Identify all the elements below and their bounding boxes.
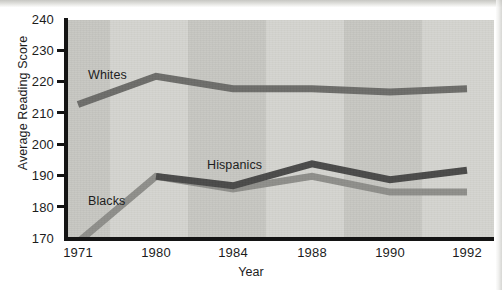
y-axis-tick-230 — [57, 49, 66, 52]
y-axis-tick-220 — [57, 80, 66, 83]
plot-area: Whites Blacks Hispanics — [68, 20, 494, 239]
y-axis-tick-180 — [57, 205, 66, 208]
y-tick-label-170: 170 — [20, 232, 54, 245]
x-tick-label-1984: 1984 — [209, 245, 257, 260]
x-axis-line — [64, 237, 494, 241]
y-axis-tick-200 — [57, 143, 66, 146]
x-tick-label-1971: 1971 — [54, 245, 102, 260]
scan-edge-right — [496, 0, 502, 290]
x-tick-label-1992: 1992 — [443, 245, 491, 260]
series-line-blacks — [78, 176, 467, 239]
series-label-blacks: Blacks — [88, 194, 125, 208]
x-tick-label-1988: 1988 — [288, 245, 336, 260]
chart-figure: 240 230 220 210 200 190 180 170 Whites — [0, 0, 502, 290]
y-axis-tick-190 — [57, 174, 66, 177]
scan-edge-top — [0, 0, 502, 7]
y-axis-tick-210 — [57, 111, 66, 114]
x-tick-label-1990: 1990 — [366, 245, 414, 260]
y-tick-label-180: 180 — [20, 201, 54, 214]
y-axis-title: Average Reading Score — [16, 18, 30, 188]
series-label-whites: Whites — [88, 68, 127, 82]
series-label-hispanics: Hispanics — [207, 158, 262, 172]
series-line-whites — [78, 76, 467, 104]
x-tick-label-1980: 1980 — [132, 245, 180, 260]
series-lines — [68, 20, 494, 239]
x-axis-title: Year — [0, 265, 502, 279]
